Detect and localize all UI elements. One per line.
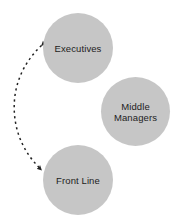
node-middle-managers-label: Middle Managers [111,101,160,123]
node-executives-label: Executives [52,43,105,54]
dashed-double-arrow-executives-front-line [14,46,41,171]
node-front-line: Front Line [43,145,113,215]
node-executives: Executives [43,13,113,83]
node-front-line-label: Front Line [53,175,103,186]
node-middle-managers: Middle Managers [101,77,170,146]
org-levels-diagram: Executives Middle Managers Front Line [0,0,172,221]
